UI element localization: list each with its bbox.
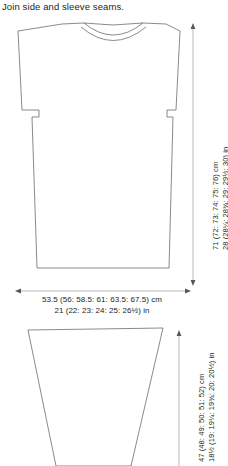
sleeve-piece: [28, 328, 163, 466]
body-width-cm: 53.5 (56: 58.5: 61: 63.5: 67.5) cm: [0, 295, 204, 306]
body-length-dimension-line: [191, 23, 196, 286]
sleeve-length-in: 18½ (19: 19¼: 19¾: 20: 20½) in: [207, 352, 217, 462]
body-width-label: 53.5 (56: 58.5: 61: 63.5: 67.5) cm 21 (2…: [0, 295, 204, 316]
sleeve-length-dimension-line: [177, 330, 182, 466]
sleeve-outline: [28, 328, 163, 466]
schematic-page: Join side and sleeve seams.: [0, 0, 228, 466]
body-width-dimension-line: [15, 289, 191, 294]
body-piece: [18, 23, 180, 268]
sleeve-length-label: 47 (48: 49: 50: 51: 52) cm 18½ (19: 19¼:…: [197, 352, 216, 462]
sleeve-length-cm: 47 (48: 49: 50: 51: 52) cm: [197, 352, 207, 462]
body-length-in: 28 (28¼: 28¾: 29: 29½: 30) in: [221, 147, 228, 250]
body-length-cm: 71 (72: 73: 74: 75: 76) cm: [211, 147, 221, 250]
garment-schematic-drawing: [0, 0, 228, 466]
body-length-label: 71 (72: 73: 74: 75: 76) cm 28 (28¼: 28¾:…: [211, 147, 228, 250]
body-outline: [18, 23, 180, 268]
body-width-in: 21 (22: 23: 24: 25: 26½) in: [0, 306, 204, 317]
